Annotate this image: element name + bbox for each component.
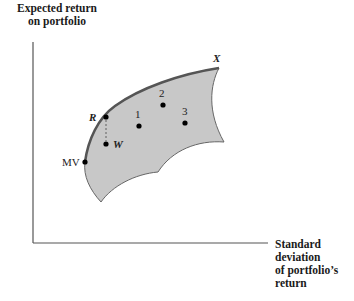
point-mv	[82, 159, 87, 164]
x-axis-label-line4: return	[275, 277, 338, 290]
x-axis-label: Standard deviation of portfolio’s return	[275, 238, 338, 290]
point-r	[103, 114, 108, 119]
point-2	[160, 102, 165, 107]
feasible-region	[85, 68, 224, 202]
label-1: 1	[135, 108, 141, 120]
label-w: W	[113, 138, 124, 150]
label-r: R	[88, 111, 96, 123]
x-axis-label-line2: deviation	[275, 251, 338, 264]
label-3: 3	[182, 105, 188, 117]
label-x: X	[212, 52, 221, 64]
point-1	[136, 123, 141, 128]
x-axis-label-line1: Standard	[275, 238, 338, 251]
x-axis-label-line3: of portfolio’s	[275, 264, 338, 277]
label-mv: MV	[62, 156, 80, 168]
point-3	[182, 120, 187, 125]
point-w	[103, 141, 108, 146]
label-2: 2	[159, 87, 165, 99]
